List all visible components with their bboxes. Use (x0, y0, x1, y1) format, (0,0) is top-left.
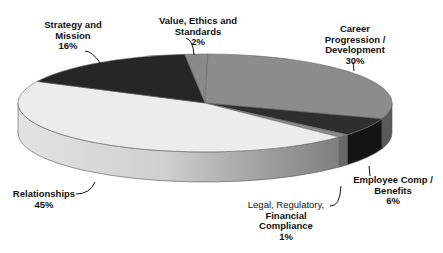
label-text: Development (318, 45, 392, 56)
label-text: Career (318, 24, 392, 35)
label-value-ethics: Value, Ethics and Standards 2% (150, 16, 246, 48)
label-strategy: Strategy and Mission 16% (38, 20, 108, 52)
label-text: Compliance (240, 221, 332, 232)
pie-top (18, 54, 392, 152)
label-text: Value, Ethics and (150, 16, 246, 27)
label-pct: 1% (240, 232, 332, 243)
label-text: Relationships (10, 189, 78, 200)
label-text: Strategy and (38, 20, 108, 31)
label-employee-comp: Employee Comp / Benefits 6% (348, 175, 438, 207)
leader-relationships (76, 182, 95, 194)
label-text: Legal, Regulatory, (240, 200, 332, 211)
label-relationships: Relationships 45% (10, 189, 78, 210)
leader-strategy (85, 51, 101, 64)
label-pct: 6% (348, 196, 438, 207)
label-legal: Legal, Regulatory, Financial Compliance … (240, 200, 332, 242)
label-pct: 30% (318, 56, 392, 67)
label-pct: 16% (38, 41, 108, 52)
label-career: Career Progression / Development 30% (318, 24, 392, 66)
label-text: Employee Comp / (348, 175, 438, 186)
label-pct: 45% (10, 200, 78, 211)
pie-side-3 (339, 135, 347, 167)
label-pct: 2% (150, 37, 246, 48)
